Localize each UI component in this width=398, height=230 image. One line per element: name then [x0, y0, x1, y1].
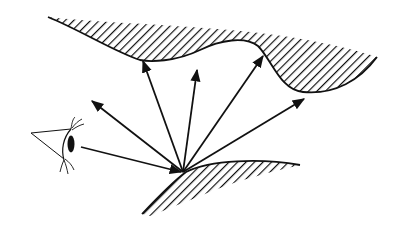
- reflected-ray-arrow: [183, 70, 197, 172]
- lower-hatched-surface: [142, 161, 300, 216]
- upper-hatched-surface: [48, 17, 377, 92]
- eye-icon: [31, 117, 84, 174]
- reflected-rays: [92, 56, 304, 172]
- reflection-diagram: [0, 0, 398, 230]
- diagram-canvas: [0, 0, 398, 230]
- reflected-ray-arrow: [183, 56, 263, 172]
